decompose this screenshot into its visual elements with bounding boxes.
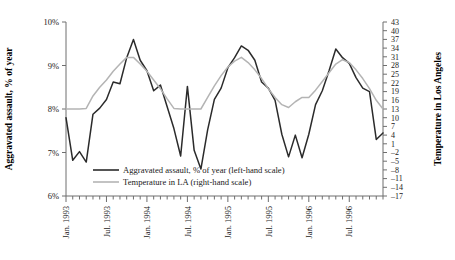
- right-tick-label: –2: [390, 148, 399, 157]
- right-tick-label: –8: [390, 166, 399, 175]
- right-tick-label: 13: [391, 105, 399, 114]
- right-tick-label: 34: [391, 44, 399, 53]
- x-tick-label: Jan. 1995: [223, 206, 233, 239]
- left-tick-label: 8%: [48, 104, 59, 114]
- left-tick-label: 9%: [48, 61, 59, 71]
- right-tick-label: –5: [390, 157, 399, 166]
- chart-render-group: 6%7%8%9%10%–17–14–11–8–5–214710131619222…: [4, 17, 443, 239]
- x-tick-label: Jul. 1993: [102, 206, 112, 237]
- aggravated-assault-temperature-chart: 6%7%8%9%10%–17–14–11–8–5–214710131619222…: [0, 0, 455, 260]
- right-tick-label: –11: [390, 174, 403, 183]
- right-tick-label: 7: [391, 122, 395, 131]
- right-tick-label: 25: [391, 70, 399, 79]
- x-tick-label: Jan. 1996: [304, 206, 314, 239]
- right-tick-label: 4: [391, 131, 395, 140]
- x-tick-label: Jan. 1994: [142, 205, 152, 238]
- right-tick-label: 40: [391, 27, 399, 36]
- right-tick-label: –14: [390, 183, 403, 192]
- right-tick-label: 22: [391, 79, 399, 88]
- right-tick-label: 31: [391, 53, 399, 62]
- x-tick-label: Jul. 1995: [264, 206, 274, 237]
- left-axis-title: Aggravated assault, % of year: [4, 47, 14, 170]
- right-tick-label: 10: [391, 114, 399, 123]
- left-tick-label: 10%: [43, 17, 59, 27]
- right-tick-label: 43: [391, 18, 399, 27]
- x-tick-label: Jul. 1996: [344, 206, 354, 237]
- right-tick-label: 37: [391, 35, 399, 44]
- legend-label: Aggravated assault, % of year (left-hand…: [123, 165, 285, 175]
- right-axis-title: Temperature in Los Angeles: [433, 52, 443, 166]
- right-tick-label: 16: [391, 96, 399, 105]
- x-tick-label: Jan. 1993: [61, 206, 71, 239]
- x-tick-label: Jul. 1994: [183, 205, 193, 237]
- right-tick-label: 1: [391, 140, 395, 149]
- right-tick-label: 19: [391, 87, 399, 96]
- series-line-assault: [66, 39, 383, 169]
- legend-label: Temperature in LA (right-hand scale): [123, 177, 251, 187]
- right-tick-label: 28: [391, 61, 399, 70]
- right-tick-label: –17: [390, 192, 403, 201]
- left-tick-label: 7%: [48, 148, 59, 158]
- left-tick-label: 6%: [48, 191, 59, 201]
